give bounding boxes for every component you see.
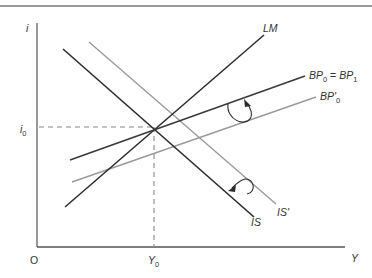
x-axis-label: Y	[351, 252, 359, 264]
is-prime-label: IS'	[277, 206, 290, 218]
y-axis-label: i	[26, 22, 29, 34]
lm-curve	[65, 35, 264, 207]
is-lm-bp-diagram: i i0 O Y0 Y LM BP0 = BP1 BP'0 IS IS'	[0, 0, 372, 278]
i0-label: i0	[20, 123, 27, 138]
is-curve	[63, 49, 254, 217]
bp0-bp1-label: BP0 = BP1	[309, 69, 357, 84]
lm-label: LM	[263, 22, 278, 34]
lower-arrowhead-icon	[228, 185, 236, 192]
upper-arrowhead-icon	[244, 99, 251, 107]
origin-label: O	[30, 254, 38, 266]
y0-label: Y0	[148, 254, 159, 269]
bp0-bp1-curve	[70, 76, 305, 160]
bp-prime0-label: BP'0	[320, 90, 340, 105]
is-label: IS	[251, 216, 261, 228]
